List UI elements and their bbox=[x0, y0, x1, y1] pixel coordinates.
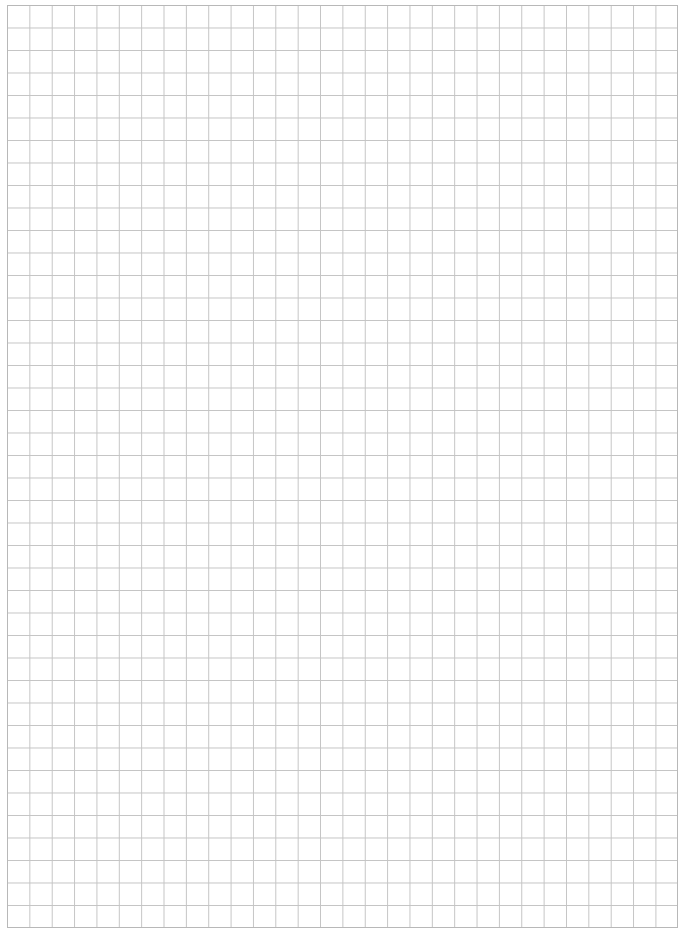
graph-paper-page bbox=[0, 0, 685, 931]
grid-area bbox=[7, 5, 678, 928]
